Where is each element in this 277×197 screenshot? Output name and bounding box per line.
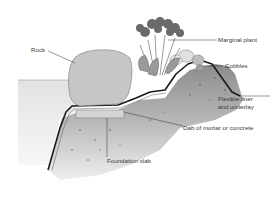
rock [68,50,132,106]
foundation-slab [76,110,124,118]
label-underlay: and underlay [218,103,254,110]
leader-rock [48,51,75,63]
label-dab: Dab of mortar or concrete [183,124,254,131]
label-cobbles: Cobbles [225,62,248,69]
label-foundation: Foundation slab [107,157,151,164]
marginal-plant [136,17,184,76]
label-flexible-liner: Flexible liner [218,95,253,102]
label-marginal-plant: Marginal plant [218,36,257,43]
label-rock: Rock [31,46,45,53]
